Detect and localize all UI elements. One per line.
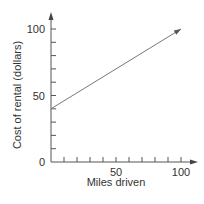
x-tick-label: 100 <box>172 166 190 178</box>
x-axis-arrow-icon <box>190 160 198 165</box>
x-axis-label: Miles driven <box>87 176 146 188</box>
y-tick-label: 50 <box>33 90 45 102</box>
series-line <box>51 29 181 109</box>
line-chart: 05010050100 Miles driven Cost of rental … <box>0 0 204 204</box>
y-tick-label: 100 <box>27 23 45 35</box>
y-axis-arrow-icon <box>49 12 54 20</box>
data-line <box>51 29 181 109</box>
y-axis-label: Cost of rental (dollars) <box>11 41 23 149</box>
axes: 05010050100 <box>27 12 198 178</box>
y-tick-label: 0 <box>39 156 45 168</box>
line-arrow-icon <box>174 29 181 35</box>
